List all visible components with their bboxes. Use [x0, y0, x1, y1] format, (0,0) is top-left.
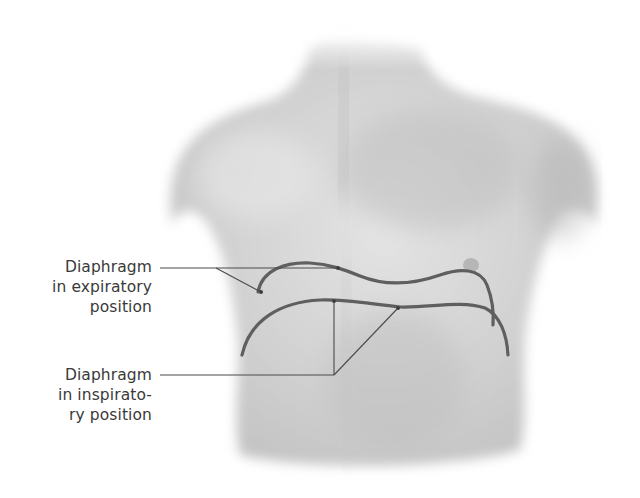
- label-line: ry position: [0, 405, 152, 425]
- label-diaphragm-inspiratory: Diaphragm in inspirato- ry position: [0, 365, 152, 425]
- label-line: in expiratory: [0, 277, 152, 297]
- label-line: Diaphragm: [0, 365, 152, 385]
- label-diaphragm-expiratory: Diaphragm in expiratory position: [0, 257, 152, 317]
- label-line: in inspirato-: [0, 385, 152, 405]
- label-line: position: [0, 297, 152, 317]
- label-line: Diaphragm: [0, 257, 152, 277]
